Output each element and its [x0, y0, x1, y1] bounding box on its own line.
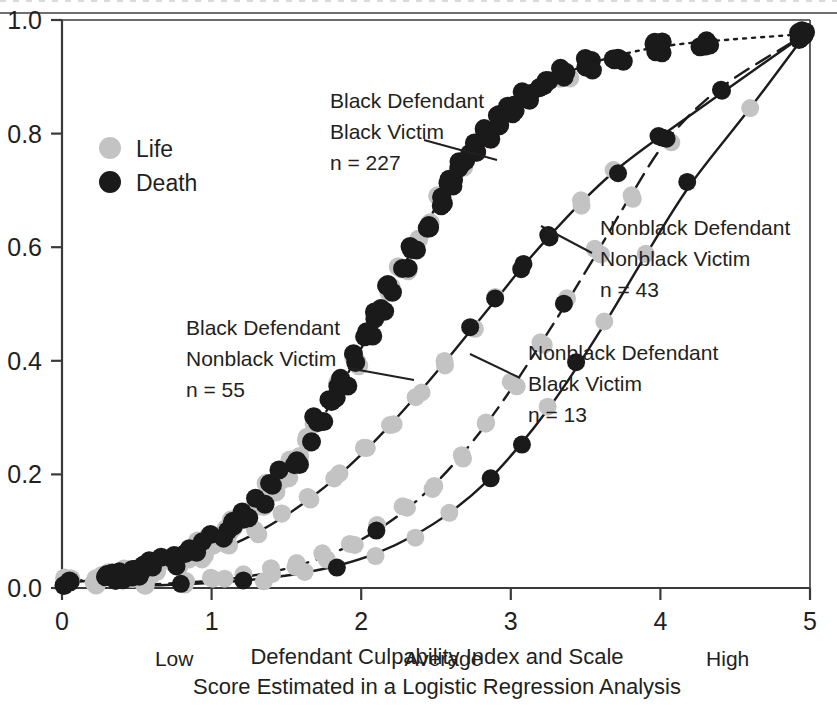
logistic-regression-scatter-plot: 0.00.20.40.60.81.0012345LowAverageHigh L… — [0, 0, 837, 708]
life-point — [385, 415, 403, 433]
death-point — [653, 32, 672, 51]
y-tick-label: 0.8 — [7, 120, 42, 148]
death-point — [309, 413, 328, 432]
death-point — [290, 455, 309, 474]
life-point — [255, 572, 273, 590]
death-point — [678, 173, 696, 191]
legend-marker-life-icon — [99, 137, 121, 159]
x-tick-label: 5 — [803, 607, 817, 635]
annotation-line-black-nonblack: Nonblack Victim — [186, 347, 336, 370]
caption-line: Defendant Culpability Index and Scale — [250, 644, 623, 669]
life-point — [406, 529, 424, 547]
fitted-curves — [69, 34, 802, 586]
life-point — [624, 190, 642, 208]
axis-caption: Defendant Culpability Index and ScaleSco… — [193, 644, 681, 699]
series-curve-nonblack-defendant-nonblack-victim — [144, 36, 802, 585]
y-tick-label: 0.4 — [7, 347, 42, 375]
x-tick-label: 3 — [504, 607, 518, 635]
death-point — [246, 489, 265, 508]
death-point — [482, 469, 500, 487]
y-tick-label: 1.0 — [7, 6, 42, 34]
chart-figure: 0.00.20.40.60.81.0012345LowAverageHigh L… — [0, 0, 837, 708]
life-point — [435, 352, 453, 370]
annotation-line-black-nonblack: n = 55 — [186, 378, 245, 401]
legend-label-life: Life — [136, 136, 173, 162]
life-point — [366, 547, 384, 565]
death-point — [367, 522, 385, 540]
death-point — [302, 432, 321, 451]
death-point — [609, 164, 627, 182]
death-point — [234, 571, 252, 589]
legend-label-death: Death — [136, 170, 197, 196]
life-point — [398, 499, 416, 517]
death-point — [365, 303, 384, 322]
x-anchor-label: High — [706, 647, 749, 670]
death-point — [61, 572, 80, 591]
death-point — [796, 27, 814, 45]
life-point — [325, 470, 343, 488]
death-point — [338, 376, 357, 395]
life-point — [296, 563, 314, 581]
annotation-line-nonblack-black: Black Victim — [528, 372, 642, 395]
x-tick-label: 0 — [55, 607, 69, 635]
annotation-line-black-black: Black Victim — [330, 120, 444, 143]
annotation-line-nonblack-nonblack: Nonblack Defendant — [600, 216, 790, 239]
life-point — [273, 505, 291, 523]
life-point — [346, 536, 364, 554]
annotation-line-nonblack-nonblack: n = 43 — [600, 278, 659, 301]
death-point — [355, 327, 374, 346]
death-point — [418, 219, 437, 238]
annotation-line-nonblack-black: n = 13 — [528, 403, 587, 426]
death-point — [461, 318, 479, 336]
caption-line: Score Estimated in a Logistic Regression… — [193, 674, 681, 699]
life-point — [573, 197, 591, 215]
annotation-line-black-nonblack: Black Defendant — [186, 316, 340, 339]
legend-marker-death-icon — [99, 171, 121, 193]
life-point — [741, 99, 759, 117]
annotation-line-nonblack-nonblack: Nonblack Victim — [600, 247, 750, 270]
death-point — [172, 575, 190, 593]
x-anchor-label: Low — [155, 647, 194, 670]
life-point — [454, 450, 472, 468]
life-point — [301, 491, 319, 509]
death-point — [378, 275, 397, 294]
series-curve-black-defendant-nonblack-victim — [69, 36, 802, 582]
death-point — [614, 52, 633, 71]
death-point — [344, 344, 363, 363]
death-point — [513, 436, 531, 454]
death-point — [535, 76, 554, 95]
life-point — [216, 570, 234, 588]
life-point — [477, 415, 495, 433]
annotation-leader-nonblack-black — [470, 354, 520, 378]
annotation-line-nonblack-black: Nonblack Defendant — [528, 341, 718, 364]
death-point — [239, 508, 258, 527]
death-point — [432, 196, 451, 215]
death-point — [712, 81, 730, 99]
annotation-line-black-black: n = 227 — [330, 151, 401, 174]
life-point — [440, 504, 458, 522]
death-point — [486, 289, 504, 307]
death-point — [393, 259, 412, 278]
legend: LifeDeath — [99, 136, 197, 196]
y-tick-label: 0.2 — [7, 460, 42, 488]
annotation-line-black-black: Black Defendant — [330, 89, 484, 112]
life-point — [358, 439, 376, 457]
death-point — [658, 130, 676, 148]
y-tick-label: 0.0 — [7, 574, 42, 602]
death-point — [512, 260, 530, 278]
life-point — [595, 312, 613, 330]
death-point — [555, 68, 574, 87]
x-tick-label: 4 — [653, 607, 667, 635]
death-point — [700, 36, 719, 55]
death-point — [555, 295, 573, 313]
series-curve-black-defendant-black-victim — [69, 34, 802, 581]
death-point — [167, 557, 185, 575]
death-point — [583, 61, 602, 80]
life-point — [413, 384, 431, 402]
x-tick-label: 1 — [205, 607, 219, 635]
x-tick-label: 2 — [354, 607, 368, 635]
death-point — [328, 559, 346, 577]
y-tick-label: 0.6 — [7, 233, 42, 261]
death-point — [407, 241, 426, 260]
life-point — [425, 477, 443, 495]
